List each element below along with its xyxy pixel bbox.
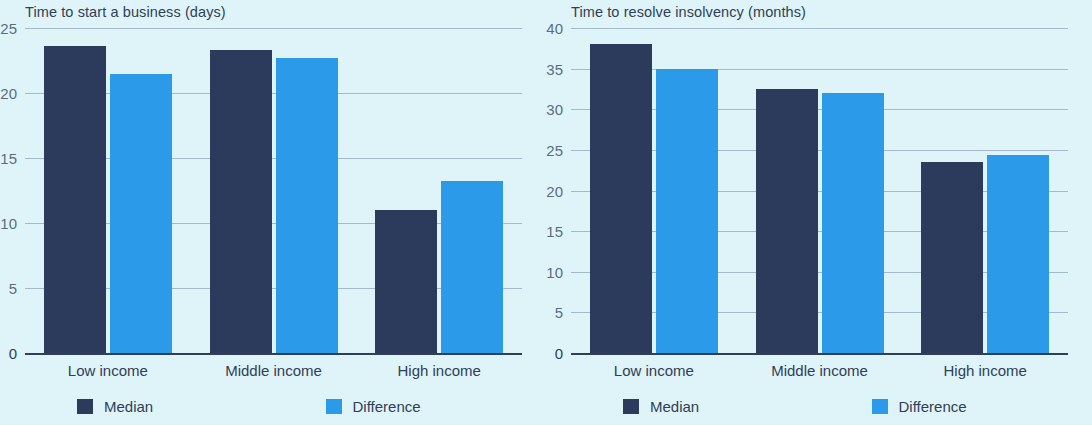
legend-label: Median	[650, 398, 699, 415]
bar-median[interactable]	[756, 89, 818, 353]
legend-item-median[interactable]: Median	[571, 398, 820, 415]
legend-swatch-icon	[623, 399, 639, 414]
legend-item-difference[interactable]: Difference	[820, 398, 1069, 415]
plot-area-left: 2520151050	[25, 28, 522, 353]
bar-difference[interactable]	[276, 58, 338, 353]
bar-group	[737, 28, 903, 353]
y-axis-tick-label: 15	[546, 223, 563, 240]
bar-median[interactable]	[375, 210, 437, 353]
y-axis-tick-label: 10	[546, 263, 563, 280]
chart-title: Time to start a business (days)	[25, 4, 226, 20]
bar-difference[interactable]	[110, 74, 172, 354]
y-axis-tick-label: 25	[546, 141, 563, 158]
bar-group	[25, 28, 191, 353]
legend-label: Difference	[353, 398, 421, 415]
legend-item-median[interactable]: Median	[25, 398, 274, 415]
legend-label: Median	[104, 398, 153, 415]
x-axis-tick-label: Low income	[25, 362, 191, 379]
y-axis-tick-label: 30	[546, 101, 563, 118]
x-axis-labels-right: Low incomeMiddle incomeHigh income	[571, 362, 1068, 379]
bar-groups-left	[25, 28, 522, 353]
y-axis-tick-label: 35	[546, 60, 563, 77]
y-axis-tick-label: 25	[0, 20, 17, 37]
bar-difference[interactable]	[987, 155, 1049, 353]
chart-title: Time to resolve insolvency (months)	[571, 4, 806, 20]
bar-group	[191, 28, 357, 353]
bar-difference[interactable]	[656, 69, 718, 353]
y-axis-tick-label: 20	[546, 182, 563, 199]
plot-area-right: 4035302520151050	[571, 28, 1068, 353]
x-axis-tick-label: Middle income	[191, 362, 357, 379]
bar-group	[356, 28, 522, 353]
y-axis-tick-label: 5	[9, 280, 17, 297]
legend-item-difference[interactable]: Difference	[274, 398, 523, 415]
chart-panel-time-to-resolve-insolvency: Time to resolve insolvency (months) 4035…	[546, 0, 1092, 425]
charts-container: Time to start a business (days) 25201510…	[0, 0, 1092, 425]
bar-median[interactable]	[210, 50, 272, 353]
x-axis-tick-label: Low income	[571, 362, 737, 379]
bar-median[interactable]	[921, 162, 983, 353]
y-axis-tick-label: 40	[546, 20, 563, 37]
x-axis-baseline: 0	[25, 353, 522, 355]
y-axis-tick-label: 5	[555, 304, 563, 321]
x-axis-tick-label: High income	[356, 362, 522, 379]
y-axis-tick-label: 10	[0, 215, 17, 232]
x-axis-tick-label: High income	[902, 362, 1068, 379]
legend-swatch-icon	[872, 399, 888, 414]
y-axis-tick-label: 20	[0, 85, 17, 102]
y-axis-tick-label: 15	[0, 150, 17, 167]
legend-swatch-icon	[326, 399, 342, 414]
bar-group	[571, 28, 737, 353]
chart-panel-time-to-start-a-business: Time to start a business (days) 25201510…	[0, 0, 546, 425]
bar-median[interactable]	[590, 44, 652, 353]
legend-label: Difference	[899, 398, 967, 415]
bar-median[interactable]	[44, 46, 106, 353]
x-axis-baseline: 0	[571, 353, 1068, 355]
legend-swatch-icon	[77, 399, 93, 414]
bar-difference[interactable]	[441, 181, 503, 353]
x-axis-tick-label: Middle income	[737, 362, 903, 379]
bar-group	[902, 28, 1068, 353]
legend-left: MedianDifference	[25, 398, 522, 415]
legend-right: MedianDifference	[571, 398, 1068, 415]
y-axis-tick-label: 0	[9, 345, 17, 362]
y-axis-tick-label: 0	[555, 345, 563, 362]
x-axis-labels-left: Low incomeMiddle incomeHigh income	[25, 362, 522, 379]
bar-groups-right	[571, 28, 1068, 353]
bar-difference[interactable]	[822, 93, 884, 353]
